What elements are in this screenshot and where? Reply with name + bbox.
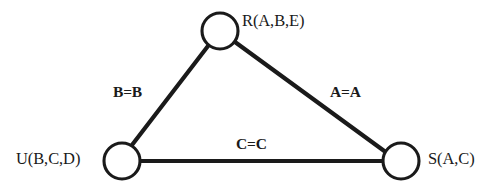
edge-label-U-R: B=B — [113, 84, 142, 100]
node-U — [104, 143, 140, 179]
node-label-R: R(A,B,E) — [242, 13, 304, 30]
node-S — [383, 143, 419, 179]
node-label-S: S(A,C) — [428, 151, 475, 168]
node-R — [202, 13, 238, 49]
edge-label-R-S: A=A — [330, 84, 361, 100]
node-label-U: U(B,C,D) — [16, 151, 80, 168]
edge-label-U-S: C=C — [236, 136, 267, 152]
edge-U-R — [132, 46, 208, 145]
join-graph-diagram: R(A,B,E) U(B,C,D) S(A,C) B=B A=A C=C — [0, 0, 504, 193]
